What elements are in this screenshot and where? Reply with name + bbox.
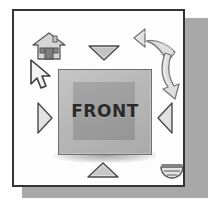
triangle-down-icon — [87, 42, 121, 62]
figure-frame: FRONT Top nav arrow Bottom nav arrow Lef… — [12, 9, 185, 187]
compass-button[interactable]: Compass ring — [159, 161, 183, 185]
nav-arrow-left[interactable]: Left nav arrow — [34, 101, 54, 135]
screenshot-root: FRONT Top nav arrow Bottom nav arrow Lef… — [0, 0, 210, 203]
nav-arrow-top[interactable]: Top nav arrow — [87, 42, 121, 62]
nav-arrow-right[interactable]: Right nav arrow — [156, 101, 176, 135]
home-icon — [32, 31, 66, 61]
rotate-clockwise-button[interactable]: Rotate clockwise — [158, 51, 183, 101]
rotate-clockwise-icon — [158, 51, 183, 101]
viewcube-face-label: FRONT — [59, 103, 151, 120]
cursor-arrow-icon — [27, 58, 53, 92]
triangle-up-icon — [86, 161, 120, 181]
triangle-left-icon — [156, 101, 176, 135]
nav-arrow-bottom[interactable]: Bottom nav arrow — [86, 161, 120, 181]
home-button[interactable]: Home view — [32, 31, 66, 61]
mouse-cursor: Mouse pointer — [27, 58, 53, 92]
compass-icon — [159, 161, 183, 185]
triangle-right-icon — [34, 101, 54, 135]
viewcube-widget[interactable]: FRONT Top nav arrow Bottom nav arrow Lef… — [14, 11, 183, 185]
viewcube-body[interactable]: FRONT — [58, 69, 152, 155]
